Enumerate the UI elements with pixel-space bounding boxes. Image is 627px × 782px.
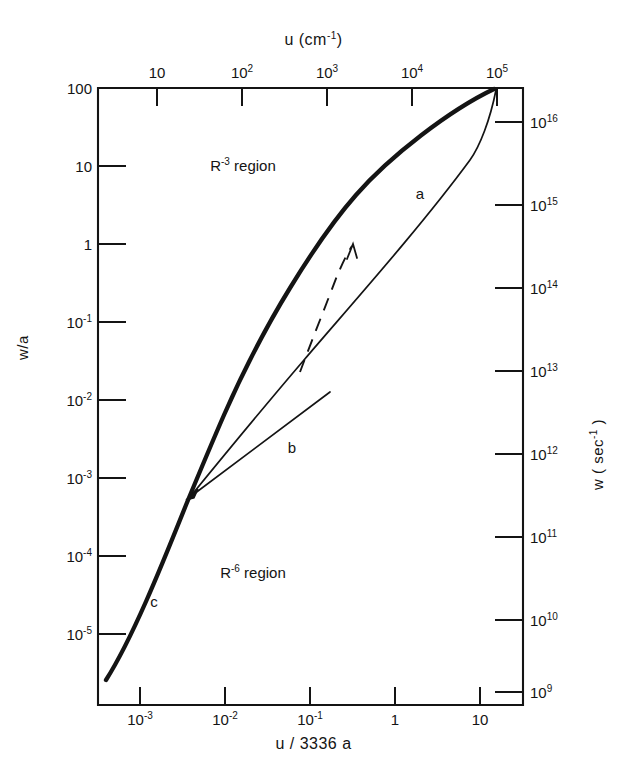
tick-base: 10	[75, 158, 92, 175]
top-axis-title-sup: -1	[327, 30, 337, 41]
bottom-axis-ticks	[140, 687, 480, 705]
tick-base: 10	[530, 363, 547, 380]
left-tick-label: 10-1	[66, 315, 92, 330]
tick-base: 10	[401, 64, 418, 81]
left-tick-label: 1	[84, 237, 92, 252]
curve-a-thin	[190, 90, 496, 497]
left-axis-title-text: w/a	[14, 335, 31, 360]
region-sup: -3	[221, 156, 230, 167]
tick-sup: 4	[418, 63, 424, 74]
tick-base: 1	[391, 711, 399, 728]
figure-container: u (cm-1) u / 3336 a w/a w ( sec-1 ) 10 1…	[0, 0, 627, 782]
tick-sup: 16	[547, 113, 558, 124]
tick-base: 10	[66, 626, 83, 643]
left-tick-label: 10-3	[66, 471, 92, 486]
right-axis-title-tail: )	[589, 419, 606, 429]
tick-base: 10	[149, 64, 166, 81]
left-axis-ticks	[98, 166, 126, 634]
top-tick-label: 102	[231, 65, 253, 80]
region-tail: region	[240, 564, 286, 581]
tick-base: 10	[530, 684, 547, 701]
curve-label-b: b	[288, 439, 296, 456]
tick-sup: 13	[547, 362, 558, 373]
curve-dashed	[300, 246, 352, 372]
tick-base: 10	[530, 197, 547, 214]
bottom-tick-label: 10	[472, 712, 489, 727]
right-tick-label: 1010	[530, 613, 558, 628]
tick-base: 10	[231, 64, 248, 81]
tick-sup: -1	[83, 313, 92, 324]
tick-base: 10	[530, 529, 547, 546]
top-axis-title-tail: )	[337, 31, 343, 48]
tick-base: 10	[472, 711, 489, 728]
tick-base: 10	[66, 392, 83, 409]
top-tick-label: 105	[486, 65, 508, 80]
curve-label-a: a	[416, 185, 424, 202]
tick-base: 10	[530, 280, 547, 297]
region-sup: -6	[231, 563, 240, 574]
region-label-upper: R-3 region	[210, 157, 276, 174]
tick-sup: 11	[547, 528, 557, 539]
right-tick-label: 1014	[530, 281, 558, 296]
tick-base: 10	[530, 114, 547, 131]
top-axis-ticks	[157, 88, 497, 106]
left-axis-title: w/a	[14, 335, 31, 360]
left-tick-label: 10-2	[66, 393, 92, 408]
bottom-axis-title-text: u / 3336 a	[275, 735, 351, 752]
curve-c-thick	[106, 89, 494, 680]
right-tick-label: 1016	[530, 115, 558, 130]
region-base: R	[210, 157, 221, 174]
left-tick-label: 10-4	[66, 549, 92, 564]
right-axis-title-sup: -1	[588, 429, 599, 439]
region-label-lower: R-6 region	[220, 564, 286, 581]
bottom-tick-label: 10-3	[127, 712, 153, 727]
left-tick-label: 10-5	[66, 627, 92, 642]
tick-base: 10	[486, 64, 503, 81]
right-tick-label: 1015	[530, 198, 558, 213]
right-tick-label: 1013	[530, 364, 558, 379]
tick-base: 100	[67, 80, 92, 97]
tick-sup: 3	[333, 63, 339, 74]
region-tail: region	[230, 157, 276, 174]
right-tick-label: 109	[530, 685, 552, 700]
tick-base: 10	[297, 711, 314, 728]
right-tick-label: 1012	[530, 447, 558, 462]
tick-sup: -2	[229, 710, 238, 721]
left-tick-label: 10	[75, 159, 92, 174]
tick-sup: 12	[547, 445, 558, 456]
curve-label-c: c	[150, 593, 158, 610]
tick-base: 10	[316, 64, 333, 81]
tick-sup: 14	[547, 279, 558, 290]
tick-base: 10	[530, 612, 547, 629]
tick-sup: 5	[503, 63, 509, 74]
top-axis-title-text: u (cm	[284, 31, 327, 48]
tick-base: 1	[84, 236, 92, 253]
tick-base: 10	[127, 711, 144, 728]
right-axis-title: w ( sec-1 )	[588, 419, 606, 490]
tick-base: 10	[66, 470, 83, 487]
top-tick-label: 103	[316, 65, 338, 80]
top-axis-title: u (cm-1)	[0, 30, 627, 49]
tick-base: 10	[530, 446, 547, 463]
tick-sup: 9	[547, 683, 553, 694]
tick-sup: -5	[83, 625, 92, 636]
top-tick-label: 10	[149, 65, 166, 80]
tick-sup: 2	[248, 63, 254, 74]
right-tick-label: 1011	[530, 530, 557, 545]
dashed-arrowhead	[347, 244, 357, 259]
tick-sup: -1	[314, 710, 323, 721]
tick-base: 10	[66, 548, 83, 565]
right-axis-title-text: w ( sec	[589, 439, 606, 490]
plot-frame	[98, 88, 523, 705]
tick-base: 10	[66, 314, 83, 331]
region-base: R	[220, 564, 231, 581]
tick-sup: -4	[83, 547, 92, 558]
top-tick-label: 104	[401, 65, 423, 80]
bottom-tick-label: 10-2	[212, 712, 238, 727]
bottom-tick-label: 1	[391, 712, 399, 727]
tick-sup: -2	[83, 391, 92, 402]
right-axis-ticks	[495, 122, 523, 692]
tick-sup: -3	[144, 710, 153, 721]
tick-sup: -3	[83, 469, 92, 480]
tick-sup: 10	[547, 611, 558, 622]
